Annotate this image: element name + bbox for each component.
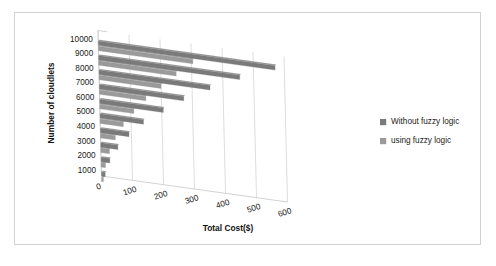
x-tick-400: 400	[215, 197, 231, 210]
y-tick-labels: 1000200030004000500060007000800090001000…	[70, 35, 96, 175]
y-axis-title: Number of cloudlets	[46, 62, 56, 143]
gridline-300	[191, 44, 195, 190]
x-tick-300: 300	[184, 193, 200, 206]
y-tick-4000: 4000	[77, 122, 96, 131]
legend-label-0: Without fuzzy logic	[391, 117, 459, 126]
bar-chart: 0100200300400500600 10002000300040005000…	[0, 0, 496, 266]
x-axis-title: Total Cost($)	[203, 223, 254, 233]
y-tick-10000: 10000	[70, 35, 93, 44]
x-tick-500: 500	[246, 202, 262, 215]
x-tick-600: 600	[277, 206, 293, 219]
x-tick-200: 200	[153, 189, 169, 202]
gridline-500	[253, 52, 257, 198]
legend-label-1: using fuzzy logic	[391, 136, 451, 145]
bar-using-fuzzy-1000	[102, 177, 104, 182]
plot-top-edge	[98, 31, 107, 32]
gridline-400	[222, 48, 226, 194]
gridline-600	[284, 57, 288, 203]
y-tick-5000: 5000	[76, 107, 95, 116]
bar-without-fuzzy-1000	[102, 172, 106, 177]
x-tick-labels: 0100200300400500600	[95, 182, 293, 220]
y-tick-7000: 7000	[76, 78, 95, 87]
bar-using-fuzzy-2000	[101, 163, 105, 168]
legend-swatch-1	[380, 138, 386, 144]
y-tick-2000: 2000	[77, 151, 96, 160]
y-tick-1000: 1000	[78, 166, 97, 175]
y-tick-8000: 8000	[75, 64, 94, 73]
legend: Without fuzzy logicusing fuzzy logic	[380, 117, 459, 145]
y-tick-6000: 6000	[76, 93, 95, 102]
y-tick-3000: 3000	[77, 137, 96, 146]
bars-group	[98, 40, 276, 182]
x-tick-100: 100	[122, 184, 138, 197]
legend-swatch-0	[380, 119, 386, 125]
x-tick-0: 0	[95, 182, 103, 192]
y-tick-9000: 9000	[75, 49, 94, 58]
